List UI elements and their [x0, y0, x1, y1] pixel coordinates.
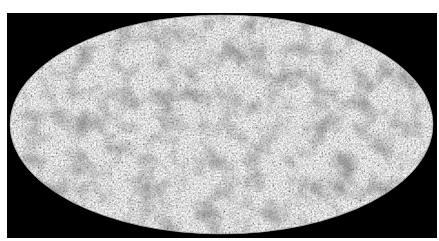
- sky-map: [0, 0, 439, 241]
